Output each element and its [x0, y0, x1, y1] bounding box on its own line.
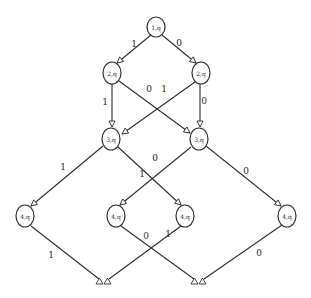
- edge-label: 0: [176, 38, 182, 48]
- node-label: 4,q: [180, 213, 190, 221]
- edge-n2a-n3b: [119, 81, 190, 133]
- node-1: 1,q: [147, 17, 165, 37]
- edge-label: 0: [256, 248, 262, 258]
- node-3-left: 3,q: [102, 128, 120, 150]
- nodes: 1,q 2,q 2,q 3,q 3,q 4,q 4,q 4,q: [16, 17, 296, 227]
- edge-label: 1: [165, 229, 171, 239]
- edge-label: 1: [60, 162, 66, 172]
- edge-n3a-n4a: [31, 146, 103, 206]
- edge-label: 1: [102, 97, 108, 107]
- edge-n2b-n3a: [122, 82, 195, 134]
- edge-label: 0: [143, 231, 149, 241]
- edge-label: 0: [243, 166, 249, 176]
- edge-n3a-n4c: [118, 147, 181, 205]
- node-label: 3,q: [106, 136, 116, 144]
- edge-n4d-s2: [204, 225, 282, 279]
- edge-label: 0: [201, 96, 207, 106]
- node-4-c: 4,q: [176, 205, 194, 227]
- edge-label: 1: [139, 169, 145, 179]
- edge-n3b-n4d: [206, 146, 281, 206]
- node-label: 2,q: [196, 70, 206, 78]
- edge-label: 1: [48, 250, 54, 260]
- node-label: 4,q: [282, 213, 292, 221]
- node-label: 4,q: [20, 213, 30, 221]
- edge-n4a-s1: [31, 226, 99, 279]
- node-label: 2,q: [107, 70, 117, 78]
- node-4-d: 4,q: [278, 205, 296, 227]
- node-4-b: 4,q: [107, 205, 125, 227]
- node-label: 4,q: [111, 213, 121, 221]
- sinks: [96, 278, 206, 284]
- edge-label: 0: [152, 153, 158, 163]
- node-2-right: 2,q: [192, 62, 210, 84]
- decision-diagram: 1 0 1 0 1 0 1 0 1 0 1 0 1 0 1,q 2,q 2,q …: [0, 0, 311, 298]
- edge-label: 0: [146, 84, 152, 94]
- node-4-a: 4,q: [16, 205, 34, 227]
- node-label: 1,q: [151, 24, 161, 32]
- node-3-right: 3,q: [190, 128, 208, 150]
- edge-label: 1: [161, 84, 167, 94]
- node-label: 3,q: [194, 136, 204, 144]
- edge-label: 1: [131, 39, 137, 49]
- edge-labels: 1 0 1 0 1 0 1 0 1 0 1 0 1 0: [48, 38, 262, 260]
- edge-n4b-s2: [121, 226, 194, 279]
- node-2-left: 2,q: [103, 62, 121, 84]
